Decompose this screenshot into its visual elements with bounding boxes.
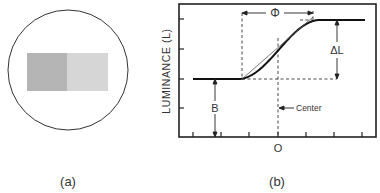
panel-b: LUMINANCE (L) Φ ΔL (160, 4, 376, 189)
plot-frame (179, 4, 376, 137)
base-label: B (211, 102, 218, 114)
center-pointer (279, 106, 294, 110)
right-patch (67, 53, 108, 91)
tangent-line (242, 17, 313, 79)
center-label: Center (296, 103, 322, 113)
phase-label: Φ (270, 6, 280, 20)
figure: (a) LUMINANCE (L) Φ (0, 0, 380, 193)
delta-l-label: ΔL (330, 44, 343, 56)
dashed-guides (242, 11, 337, 137)
panel-a: (a) (8, 10, 128, 189)
left-patch (27, 53, 67, 91)
caption-b: (b) (269, 174, 285, 189)
y-axis-label: LUMINANCE (L) (160, 28, 172, 113)
caption-a: (a) (60, 174, 76, 189)
x-origin-label: O (274, 142, 283, 154)
